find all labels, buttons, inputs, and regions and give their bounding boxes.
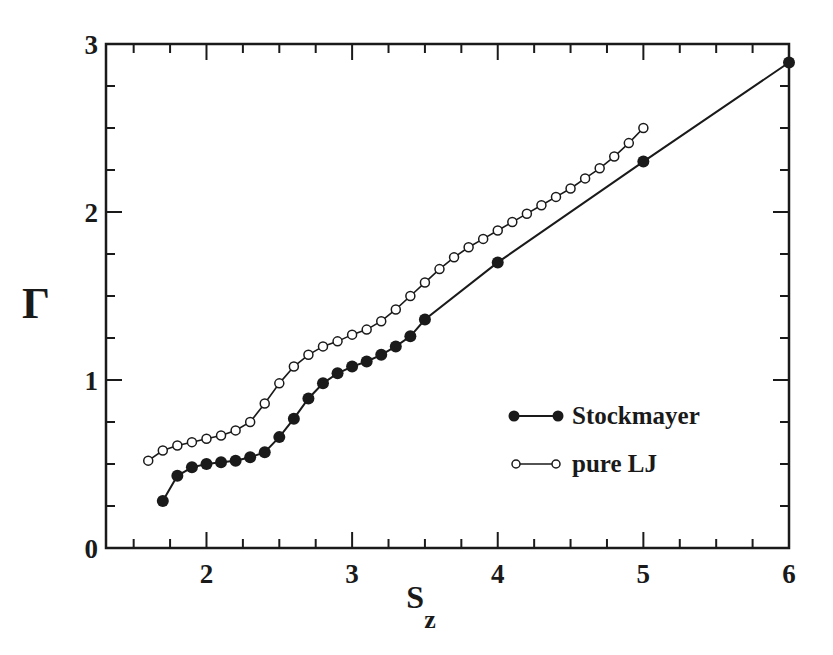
data-point-open bbox=[566, 184, 575, 193]
y-tick-label: 2 bbox=[85, 198, 99, 228]
legend: Stockmayer pure LJ bbox=[509, 402, 700, 477]
axis-ticks bbox=[106, 44, 789, 548]
data-point-open bbox=[537, 201, 546, 210]
data-point-filled bbox=[215, 456, 227, 468]
data-point-open bbox=[289, 362, 298, 371]
x-tick-label: 5 bbox=[637, 559, 651, 589]
data-point-open bbox=[304, 350, 313, 359]
open-circle-icon bbox=[552, 460, 560, 468]
data-point-open bbox=[202, 434, 211, 443]
data-point-open bbox=[420, 278, 429, 287]
data-point-open bbox=[624, 139, 633, 148]
data-point-filled bbox=[361, 356, 373, 368]
data-point-open bbox=[348, 330, 357, 339]
data-point-filled bbox=[288, 413, 300, 425]
data-point-open bbox=[435, 265, 444, 274]
legend-label-pure-lj: pure LJ bbox=[572, 450, 657, 477]
x-tick-label: 6 bbox=[782, 559, 796, 589]
data-point-filled bbox=[230, 455, 242, 467]
x-axis-label: Sz bbox=[406, 579, 435, 634]
tick-labels: 234560123 bbox=[85, 30, 796, 589]
data-point-filled bbox=[317, 377, 329, 389]
data-point-open bbox=[391, 305, 400, 314]
data-point-open bbox=[464, 243, 473, 252]
series-line bbox=[148, 128, 643, 461]
data-point-open bbox=[450, 253, 459, 262]
data-point-open bbox=[639, 124, 648, 133]
data-point-filled bbox=[419, 314, 431, 326]
legend-label-stockmayer: Stockmayer bbox=[572, 402, 700, 429]
data-series bbox=[144, 56, 795, 506]
x-tick-label: 2 bbox=[200, 559, 214, 589]
x-tick-label: 4 bbox=[491, 559, 505, 589]
data-point-filled bbox=[302, 392, 314, 404]
data-point-open bbox=[318, 342, 327, 351]
data-point-open bbox=[260, 399, 269, 408]
data-point-open bbox=[144, 456, 153, 465]
x-axis-label-main: S bbox=[406, 579, 424, 615]
series-stockmayer bbox=[157, 56, 795, 506]
data-point-open bbox=[508, 218, 517, 227]
data-point-open bbox=[187, 438, 196, 447]
data-point-open bbox=[406, 292, 415, 301]
data-point-filled bbox=[259, 446, 271, 458]
data-point-open bbox=[522, 209, 531, 218]
chart-figure: 234560123 Γ Sz Stockmayer pure LJ bbox=[0, 0, 833, 655]
series-line bbox=[163, 62, 789, 500]
data-point-filled bbox=[157, 495, 169, 507]
y-axis-label: Γ bbox=[22, 279, 50, 328]
plot-frame bbox=[106, 44, 789, 548]
data-point-open bbox=[217, 431, 226, 440]
data-point-filled bbox=[332, 367, 344, 379]
data-point-open bbox=[377, 317, 386, 326]
data-point-open bbox=[246, 418, 255, 427]
data-point-open bbox=[595, 164, 604, 173]
x-axis-label-subscript: z bbox=[424, 605, 436, 634]
data-point-open bbox=[173, 441, 182, 450]
y-tick-label: 1 bbox=[85, 366, 99, 396]
data-point-open bbox=[581, 174, 590, 183]
legend-item-pure-lj: pure LJ bbox=[512, 450, 657, 477]
data-point-filled bbox=[783, 56, 795, 68]
data-point-filled bbox=[346, 361, 358, 373]
data-point-open bbox=[231, 426, 240, 435]
filled-circle-icon bbox=[553, 411, 564, 422]
data-point-open bbox=[158, 446, 167, 455]
x-tick-label: 3 bbox=[345, 559, 359, 589]
data-point-open bbox=[333, 337, 342, 346]
filled-circle-icon bbox=[509, 411, 520, 422]
data-point-open bbox=[479, 234, 488, 243]
y-tick-label: 3 bbox=[85, 30, 99, 60]
data-point-filled bbox=[200, 458, 212, 470]
open-circle-icon bbox=[512, 460, 520, 468]
data-point-filled bbox=[273, 431, 285, 443]
data-point-open bbox=[362, 325, 371, 334]
data-point-filled bbox=[637, 156, 649, 168]
data-point-filled bbox=[244, 451, 256, 463]
data-point-open bbox=[551, 192, 560, 201]
data-point-filled bbox=[390, 340, 402, 352]
data-point-open bbox=[275, 379, 284, 388]
data-point-filled bbox=[492, 256, 504, 268]
plot-border bbox=[106, 44, 789, 548]
legend-item-stockmayer: Stockmayer bbox=[509, 402, 700, 429]
data-point-open bbox=[493, 226, 502, 235]
y-tick-label: 0 bbox=[85, 534, 99, 564]
data-point-open bbox=[610, 152, 619, 161]
data-point-filled bbox=[186, 461, 198, 473]
data-point-filled bbox=[404, 330, 416, 342]
data-point-filled bbox=[171, 470, 183, 482]
data-point-filled bbox=[375, 349, 387, 361]
